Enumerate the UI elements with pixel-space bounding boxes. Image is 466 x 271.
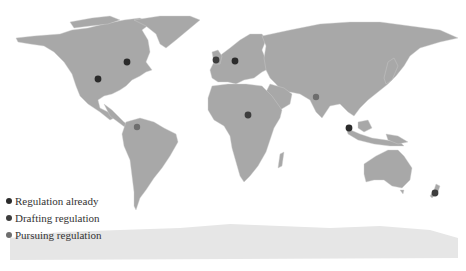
dot-icon xyxy=(6,232,12,238)
legend-label: Regulation already xyxy=(15,195,98,207)
landmasses xyxy=(16,16,458,210)
marker-malaysia xyxy=(346,125,353,132)
legend-item-already: Regulation already xyxy=(6,192,101,209)
marker-central-africa xyxy=(245,112,252,119)
north-america xyxy=(16,18,152,120)
australia xyxy=(364,150,412,188)
marker-india xyxy=(313,94,319,100)
marker-venezuela xyxy=(134,124,140,130)
map-legend: Regulation already Drafting regulation P… xyxy=(6,192,101,243)
borneo xyxy=(358,120,372,132)
south-america xyxy=(122,118,178,210)
dot-icon xyxy=(6,215,12,221)
legend-label: Pursuing regulation xyxy=(15,229,101,241)
marker-united-states xyxy=(95,76,102,83)
legend-item-pursuing: Pursuing regulation xyxy=(6,226,101,243)
dot-icon xyxy=(6,198,12,204)
marker-new-zealand xyxy=(432,190,439,197)
marker-canada xyxy=(124,59,131,66)
marker-germany xyxy=(232,58,239,65)
legend-label: Drafting regulation xyxy=(15,212,100,224)
legend-item-drafting: Drafting regulation xyxy=(6,209,101,226)
marker-united-kingdom xyxy=(213,57,220,64)
tasmania xyxy=(400,190,404,194)
madagascar xyxy=(278,152,284,168)
africa xyxy=(208,84,282,182)
asia xyxy=(262,22,458,118)
